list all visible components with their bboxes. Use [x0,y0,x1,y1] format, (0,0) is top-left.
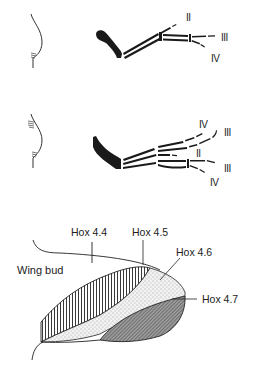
digit-label-IV-upper: IV [199,120,207,130]
digit-label-II-middle: II [196,149,201,159]
hox-4-4-label: Hox 4.4 [71,227,107,238]
graft-mark-anterior [28,121,34,128]
wing-bud-label: Wing bud [17,265,63,276]
hox-4-6-label: Hox 4.6 [176,247,212,258]
digit-label-III-top: III [221,33,228,43]
digit-label-III-lower: III [224,164,231,174]
digit-label-IV-lower: IV [210,178,218,188]
graft-mark-posterior [32,152,37,157]
graft-mark-top [31,53,36,58]
limb-outline-top [31,14,42,68]
digit-label-II-top: II [186,13,191,23]
wing-skeleton-top [96,24,215,59]
limb-outline-middle [28,114,42,168]
hox-4-5-label: Hox 4.5 [132,227,168,238]
digit-label-III-upper: III [224,128,231,138]
digit-label-IV-top: IV [211,54,219,64]
wing-bud-diagram [32,240,197,360]
hox-4-7-label: Hox 4.7 [202,294,238,305]
